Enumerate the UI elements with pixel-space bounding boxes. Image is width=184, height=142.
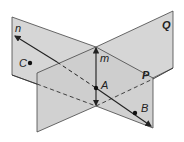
point-a-dot <box>94 86 98 90</box>
label-b: B <box>141 102 148 114</box>
point-b-dot <box>133 111 137 115</box>
label-p: P <box>142 69 150 81</box>
label-m: m <box>100 52 109 64</box>
label-q: Q <box>162 19 171 31</box>
label-c: C <box>19 57 27 69</box>
point-c-dot <box>28 61 32 65</box>
label-a: A <box>100 79 108 91</box>
label-n: n <box>15 22 21 34</box>
planes-diagram: n m C A B P Q <box>0 0 184 142</box>
